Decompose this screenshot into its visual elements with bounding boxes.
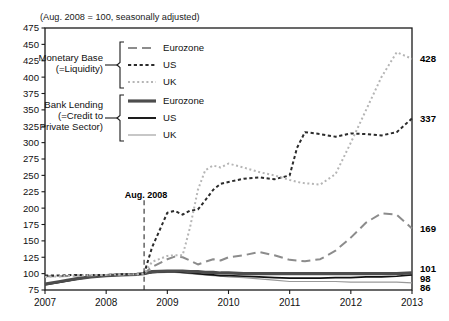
y-tick-label: 275 — [23, 153, 39, 164]
legend-group-title-monetary-base-line1: Monetary Base — [38, 52, 103, 63]
x-tick-label: 2012 — [340, 297, 363, 308]
legend-label-bl_uk: UK — [163, 129, 177, 140]
y-tick-label: 100 — [23, 268, 39, 279]
legend-group-title-bank-lending-line2: (=Credit to — [58, 110, 103, 121]
y-tick-label: 350 — [23, 104, 39, 115]
x-tick-label: 2009 — [156, 297, 179, 308]
y-tick-label: 150 — [23, 235, 39, 246]
y-tick-label: 125 — [23, 252, 39, 263]
end-label-mb_us: 337 — [420, 113, 436, 124]
y-tick-label: 425 — [23, 55, 39, 66]
legend-label-mb_uk: UK — [163, 76, 177, 87]
y-tick-label: 175 — [23, 219, 39, 230]
y-tick-label: 250 — [23, 170, 39, 181]
legend-label-mb_us: US — [163, 59, 176, 70]
legend-label-bl_us: US — [163, 112, 176, 123]
chart-figure: (Aug. 2008 = 100, seasonally adjusted) 7… — [0, 0, 449, 321]
x-tick-label: 2008 — [95, 297, 118, 308]
legend-group-title-monetary-base-line2: (=Liquidity) — [56, 63, 103, 74]
y-tick-label: 300 — [23, 137, 39, 148]
legend-group-title-bank-lending-line3: Private Sector) — [40, 121, 103, 132]
x-tick-label: 2010 — [217, 297, 240, 308]
y-tick-label: 325 — [23, 121, 39, 132]
legend-label-mb_eurozone: Eurozone — [163, 42, 204, 53]
y-tick-label: 75 — [28, 284, 39, 295]
x-tick-label: 2013 — [401, 297, 424, 308]
end-label-mb_eurozone: 169 — [420, 223, 436, 234]
x-tick-label: 2011 — [279, 297, 301, 308]
y-tick-label: 450 — [23, 39, 39, 50]
legend-group-title-bank-lending-line1: Bank Lending — [44, 99, 103, 110]
y-tick-label: 200 — [23, 203, 39, 214]
y-tick-label: 225 — [23, 186, 39, 197]
y-tick-label: 400 — [23, 72, 39, 83]
chart-canvas: (Aug. 2008 = 100, seasonally adjusted) 7… — [0, 0, 449, 321]
y-tick-label: 375 — [23, 88, 39, 99]
aug-2008-label: Aug. 2008 — [125, 190, 168, 200]
subtitle-note: (Aug. 2008 = 100, seasonally adjusted) — [40, 12, 200, 22]
end-label-mb_uk: 428 — [420, 53, 437, 64]
x-tick-label: 2007 — [34, 297, 57, 308]
y-tick-label: 475 — [23, 22, 39, 33]
legend-label-bl_eurozone: Eurozone — [163, 95, 204, 106]
end-label-bl_uk: 86 — [420, 282, 431, 293]
